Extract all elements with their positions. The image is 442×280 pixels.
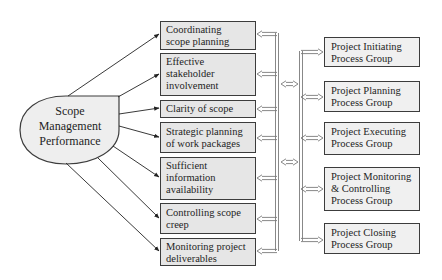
process-group-monitoring-controlling: Project Monitoring & Controlling Process…: [324, 167, 420, 211]
factor-box-coordinating-scope-planning: Coordinating scope planning: [160, 21, 256, 50]
arrow-root-to-factor-1: [68, 34, 159, 96]
arrow-root-to-factor-2: [118, 74, 159, 97]
factor-text: Coordinating: [166, 24, 250, 36]
arrow-root-to-factor-5: [113, 146, 159, 177]
factor-box-sufficient-information: Sufficient information availability: [160, 157, 256, 200]
process-link-arrow-5: [301, 237, 323, 243]
process-group-text: Process Group: [331, 53, 413, 65]
arrow-root-to-factor-3: [119, 108, 159, 114]
factor-text: Clarity of scope: [166, 103, 250, 115]
process-group-text: Process Group: [331, 239, 413, 251]
process-group-text: & Controlling: [331, 183, 413, 195]
factor-link-arrow-3: [257, 106, 277, 112]
process-link-arrow-3: [301, 135, 323, 141]
factor-text: Effective: [166, 56, 250, 68]
process-group-text: Project Executing: [331, 126, 413, 138]
process-group-text: Process Group: [331, 195, 413, 207]
factor-link-arrow-1: [257, 31, 277, 37]
process-group-text: Project Closing: [331, 227, 413, 239]
process-group-text: Process Group: [331, 97, 413, 109]
root-label-line: Scope: [22, 104, 118, 119]
factor-link-arrow-5: [257, 175, 277, 181]
factor-box-controlling-scope-creep: Controlling scope creep: [160, 203, 256, 234]
factor-text: Monitoring project: [166, 241, 250, 253]
arrow-root-to-factor-6: [98, 158, 159, 218]
factor-link-arrow-2: [257, 71, 277, 77]
factor-text: of work packages: [166, 138, 250, 150]
factor-text: creep: [166, 219, 250, 231]
factor-text: Controlling scope: [166, 207, 250, 219]
root-label-line: Performance: [22, 134, 118, 149]
root-node-label: Scope Management Performance: [22, 104, 118, 149]
factor-box-clarity-of-scope: Clarity of scope: [160, 100, 256, 118]
process-group-text: Project Planning: [331, 85, 413, 97]
process-group-executing: Project Executing Process Group: [324, 122, 420, 155]
factor-bus: [276, 33, 279, 251]
process-group-bus: [300, 51, 303, 241]
factor-text: stakeholder: [166, 68, 250, 80]
factor-text: involvement: [166, 80, 250, 92]
process-link-arrow-1: [301, 49, 323, 55]
factor-box-strategic-planning: Strategic planning of work packages: [160, 122, 256, 153]
process-group-text: Project Initiating: [331, 41, 413, 53]
bus-connector-arrow-2: [281, 159, 298, 165]
factor-box-monitoring-deliverables: Monitoring project deliverables: [160, 238, 256, 266]
factor-link-arrow-4: [257, 135, 277, 141]
factor-box-effective-stakeholder-involvement: Effective stakeholder involvement: [160, 53, 256, 96]
factor-link-arrow-7: [257, 248, 277, 254]
bus-connector-arrow-1: [281, 81, 298, 87]
factor-text: deliverables: [166, 253, 250, 265]
factor-text: scope planning: [166, 36, 250, 48]
process-link-arrow-4: [301, 186, 323, 192]
process-link-arrow-2: [301, 94, 323, 100]
factor-text: Sufficient: [166, 160, 250, 172]
arrow-root-to-factor-4: [119, 126, 159, 137]
root-label-line: Management: [22, 119, 118, 134]
process-group-initiating: Project Initiating Process Group: [324, 37, 420, 67]
process-group-planning: Project Planning Process Group: [324, 81, 420, 112]
factor-text: availability: [166, 184, 250, 196]
factor-link-arrow-6: [257, 216, 277, 222]
factor-text: Strategic planning: [166, 126, 250, 138]
factor-text: information: [166, 172, 250, 184]
arrow-root-to-factor-7: [66, 163, 159, 251]
process-group-text: Process Group: [331, 138, 413, 150]
process-group-text: Project Monitoring: [331, 171, 413, 183]
process-group-closing: Project Closing Process Group: [324, 223, 420, 254]
